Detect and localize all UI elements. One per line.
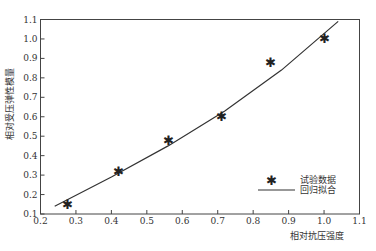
data-point-marker-icon: ✱ <box>216 109 227 124</box>
y-tick-label: 0.2 <box>23 190 37 200</box>
x-tick-label: 0.4 <box>104 216 119 226</box>
x-tick-label: 0.9 <box>281 216 296 226</box>
x-axis-label: 相对抗压强度 <box>290 230 344 241</box>
legend-line-label: 回归拟合 <box>300 184 336 195</box>
x-tick-label: 0.7 <box>211 216 226 226</box>
y-tick-label: 0.3 <box>23 170 38 180</box>
x-tick-label: 0.5 <box>140 216 155 226</box>
legend-scatter-label: 试验数据 <box>300 174 336 185</box>
y-tick-label: 0.7 <box>23 92 38 102</box>
x-tick-label: 1.1 <box>352 216 366 226</box>
y-tick-label: 0.6 <box>23 112 38 122</box>
y-axis-label: 相对受压弹性模量 <box>4 68 15 140</box>
data-points: ✱✱✱✱✱✱ <box>62 31 330 211</box>
chart: 0.10.20.30.40.50.60.70.80.91.01.1 0.20.3… <box>0 0 376 251</box>
x-tick-label: 0.3 <box>69 216 84 226</box>
data-point-marker-icon: ✱ <box>163 133 174 148</box>
x-tick-label: 0.6 <box>175 216 190 226</box>
regression-curve <box>55 21 339 206</box>
y-tick-label: 0.8 <box>23 73 38 83</box>
x-axis: 0.20.30.40.50.60.70.80.91.01.1 <box>33 210 366 226</box>
y-tick-label: 1.0 <box>23 34 38 44</box>
y-tick-label: 0.9 <box>23 53 38 63</box>
legend: ✱ 试验数据 回归拟合 <box>258 173 336 195</box>
y-axis: 0.10.20.30.40.50.60.70.80.91.01.1 <box>23 15 44 220</box>
data-point-marker-icon: ✱ <box>62 197 73 212</box>
data-point-marker-icon: ✱ <box>319 31 330 46</box>
data-point-marker-icon: ✱ <box>265 55 276 70</box>
legend-marker-icon: ✱ <box>266 173 277 188</box>
y-tick-label: 0.5 <box>23 131 38 141</box>
y-tick-label: 0.4 <box>23 151 38 161</box>
y-tick-label: 1.1 <box>23 15 37 25</box>
x-tick-label: 0.8 <box>246 216 261 226</box>
x-tick-label: 1.0 <box>317 216 332 226</box>
data-point-marker-icon: ✱ <box>113 164 124 179</box>
x-tick-label: 0.2 <box>33 216 47 226</box>
